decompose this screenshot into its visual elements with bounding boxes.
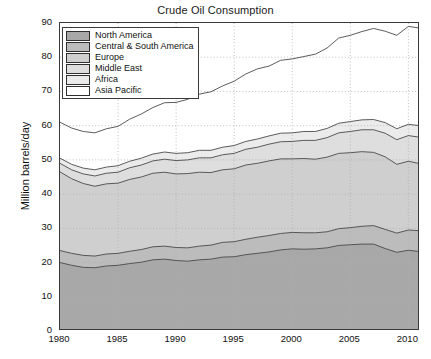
- x-tick-label: 2000: [266, 333, 316, 344]
- legend-swatch-icon: [66, 86, 90, 96]
- y-tick-label: 30: [0, 221, 52, 232]
- legend-label: Africa: [95, 75, 118, 84]
- x-tick-label: 1985: [92, 333, 142, 344]
- y-tick-label: 20: [0, 256, 52, 267]
- x-tick-label: 1990: [150, 333, 200, 344]
- x-tick-label: 1995: [208, 333, 258, 344]
- legend-item: Central & South America: [66, 41, 194, 52]
- legend-label: Central & South America: [95, 42, 194, 51]
- legend-swatch-icon: [66, 42, 90, 52]
- legend-label: Asia Pacific: [95, 86, 142, 95]
- legend-swatch-icon: [66, 53, 90, 63]
- x-tick-label: 1980: [34, 333, 84, 344]
- legend-label: North America: [95, 31, 152, 40]
- y-tick-label: 70: [0, 84, 52, 95]
- legend-item: Africa: [66, 74, 194, 85]
- legend-item: North America: [66, 30, 194, 41]
- y-tick-label: 40: [0, 187, 52, 198]
- legend-swatch-icon: [66, 64, 90, 74]
- y-tick-label: 50: [0, 153, 52, 164]
- chart-legend: North AmericaCentral & South AmericaEuro…: [62, 27, 199, 99]
- y-tick-label: 90: [0, 16, 52, 27]
- chart-figure: Crude Oil Consumption Million barrels/da…: [0, 0, 431, 359]
- legend-item: Middle East: [66, 63, 194, 74]
- y-tick-label: 60: [0, 119, 52, 130]
- x-tick-label: 2005: [324, 333, 374, 344]
- x-tick-label: 2010: [382, 333, 431, 344]
- legend-item: Asia Pacific: [66, 85, 194, 96]
- y-tick-label: 10: [0, 290, 52, 301]
- legend-swatch-icon: [66, 75, 90, 85]
- legend-label: Middle East: [95, 64, 142, 73]
- legend-label: Europe: [95, 53, 124, 62]
- legend-swatch-icon: [66, 31, 90, 41]
- y-tick-label: 80: [0, 50, 52, 61]
- legend-item: Europe: [66, 52, 194, 63]
